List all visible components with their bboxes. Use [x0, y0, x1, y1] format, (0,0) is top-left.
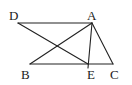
segment-AB [30, 23, 92, 64]
label-C: C [110, 67, 119, 82]
label-D: D [9, 8, 18, 23]
label-A: A [87, 8, 97, 23]
segment-AC [92, 23, 113, 64]
diagram-canvas: D A B E C [0, 0, 132, 85]
label-E: E [87, 67, 95, 82]
segment-DE [18, 23, 88, 64]
geometry-diagram: D A B E C [0, 0, 132, 85]
label-B: B [21, 67, 30, 82]
segment-AE [88, 23, 92, 68]
